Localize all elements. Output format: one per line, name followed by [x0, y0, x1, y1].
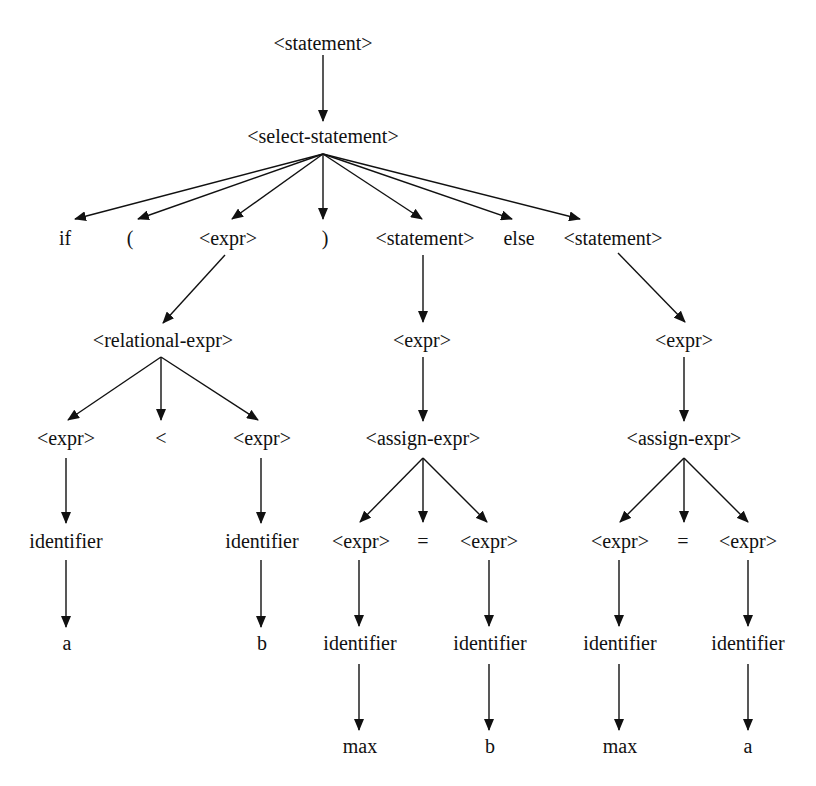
tree-edge-arrow	[360, 458, 423, 522]
tree-node: <relational-expr>	[93, 330, 233, 350]
tree-node: <expr>	[655, 330, 713, 350]
tree-node: =	[677, 531, 688, 551]
tree-edge-arrow	[75, 154, 323, 219]
tree-node: <expr>	[37, 428, 95, 448]
tree-node: <statement>	[273, 33, 372, 53]
tree-edge-arrow	[684, 458, 748, 522]
tree-node: <statement>	[375, 228, 474, 248]
tree-node: identifier	[323, 633, 396, 653]
tree-node: if	[59, 228, 71, 248]
tree-node: =	[417, 531, 428, 551]
tree-edge-arrow	[232, 154, 323, 219]
tree-node: a	[744, 736, 753, 756]
tree-node: <expr>	[199, 228, 257, 248]
tree-node: )	[322, 228, 329, 248]
tree-edge-arrow	[323, 154, 580, 219]
tree-node: <expr>	[591, 531, 649, 551]
tree-node: <expr>	[332, 531, 390, 551]
tree-node: <assign-expr>	[366, 428, 481, 448]
tree-node: identifier	[29, 531, 102, 551]
tree-node: <expr>	[460, 531, 518, 551]
tree-node: max	[343, 736, 377, 756]
tree-node: <assign-expr>	[627, 428, 742, 448]
tree-node: identifier	[583, 633, 656, 653]
tree-node: <expr>	[233, 428, 291, 448]
tree-node: identifier	[225, 531, 298, 551]
tree-node: a	[63, 633, 72, 653]
parse-tree-diagram: <statement><select-statement>if(<expr>)<…	[0, 0, 816, 786]
tree-node: identifier	[711, 633, 784, 653]
tree-node: b	[257, 633, 267, 653]
tree-edge-arrow	[323, 154, 422, 219]
tree-edge-arrow	[161, 357, 258, 420]
tree-node: b	[485, 736, 495, 756]
tree-edge-arrow	[163, 255, 225, 323]
tree-edge-arrow	[323, 154, 512, 219]
tree-edge-arrow	[618, 253, 685, 322]
tree-node: identifier	[453, 633, 526, 653]
tree-edge-arrow	[68, 357, 161, 420]
tree-edge-arrow	[138, 154, 323, 219]
tree-node: <statement>	[563, 228, 662, 248]
tree-node: max	[603, 736, 637, 756]
tree-edge-arrow	[620, 458, 684, 522]
tree-node: (	[127, 228, 134, 248]
tree-edges	[0, 0, 816, 786]
tree-node: <expr>	[393, 330, 451, 350]
tree-edge-arrow	[423, 458, 487, 522]
tree-node: <expr>	[719, 531, 777, 551]
tree-node: else	[503, 228, 534, 248]
tree-node: <select-statement>	[247, 126, 398, 146]
tree-node: <	[155, 428, 166, 448]
